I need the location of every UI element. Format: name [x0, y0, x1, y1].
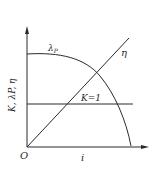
x-axis-arrow-icon [141, 145, 149, 149]
k-label: K=1 [80, 93, 101, 103]
y-axis-label: K, λP, η [7, 78, 17, 113]
x-axis-label: i [81, 152, 84, 163]
y-axis-arrow-icon [25, 26, 29, 34]
lambda-p-curve [27, 54, 131, 146]
eta-line [27, 38, 129, 147]
origin-label: O [20, 150, 28, 161]
eta-label: η [121, 47, 127, 58]
diagram-canvas: λP η K=1 O i K, λP, η [0, 0, 155, 171]
lambda-p-label: λP [47, 43, 59, 54]
